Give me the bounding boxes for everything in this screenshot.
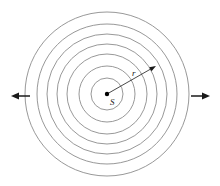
wave-propagation-figure: S r [0, 0, 220, 186]
left-arrow-head [11, 93, 19, 100]
left-propagation-arrow [11, 93, 30, 100]
source-label: S [110, 98, 115, 107]
right-propagation-arrow [191, 93, 210, 100]
radius-label: r [132, 69, 136, 78]
radius-vector-arrowhead [149, 66, 156, 71]
source-point-dot [105, 92, 109, 96]
right-arrow-head [202, 93, 210, 100]
wavefront-diagram-canvas [0, 0, 220, 186]
